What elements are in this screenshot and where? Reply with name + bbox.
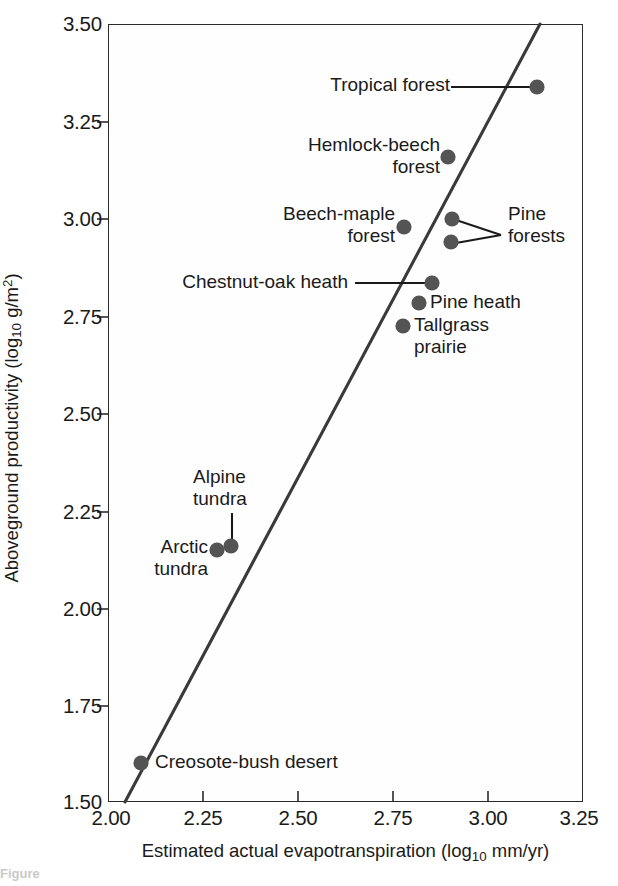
annotation-beech-maple-forest: Beech-maple forest [180, 203, 395, 246]
point-beech-maple-forest [396, 219, 411, 234]
annotation-alpine-tundra: Alpine tundra [193, 466, 323, 509]
annotation-pine-heath: Pine heath [430, 291, 590, 313]
point-tropical-forest [529, 79, 544, 94]
leader-pine-forests-upper [456, 220, 501, 235]
point-creosote-bush-desert [133, 755, 148, 770]
point-alpine-tundra [223, 538, 238, 553]
y-axis-title: Aboveground productivity (log10 g/m2) [0, 39, 30, 817]
annotation-tropical-forest: Tropical forest [200, 74, 450, 96]
x-axis-ticks [203, 791, 488, 802]
figure-caption: Figure [0, 866, 618, 886]
annotation-chestnut-oak-heath: Chestnut-oak heath [120, 271, 348, 293]
caption-label: Figure [0, 866, 40, 881]
point-pine-heath [411, 295, 426, 310]
point-pine-forest-lower [443, 234, 458, 249]
point-hemlock-beech-forest [440, 149, 455, 164]
annotation-hemlock-beech-forest: Hemlock-beech forest [200, 134, 440, 177]
annotation-arctic-tundra: Arctic tundra [80, 536, 208, 579]
annotation-tallgrass-prairie: Tallgrass prairie [414, 314, 574, 357]
point-arctic-tundra [209, 542, 224, 557]
point-tallgrass-prairie [395, 318, 410, 333]
annotation-pine-forests: Pine forests [508, 203, 613, 246]
figure-container: 3.50 3.25 3.00 2.75 2.50 2.25 2.00 1.75 … [0, 0, 618, 886]
point-pine-forest-upper [444, 211, 459, 226]
data-points [133, 79, 544, 770]
leader-pine-forests-lower [456, 235, 501, 243]
x-axis-title: Estimated actual evapotranspiration (log… [108, 840, 583, 864]
point-chestnut-oak-heath [424, 275, 439, 290]
annotation-creosote-bush-desert: Creosote-bush desert [155, 751, 455, 773]
